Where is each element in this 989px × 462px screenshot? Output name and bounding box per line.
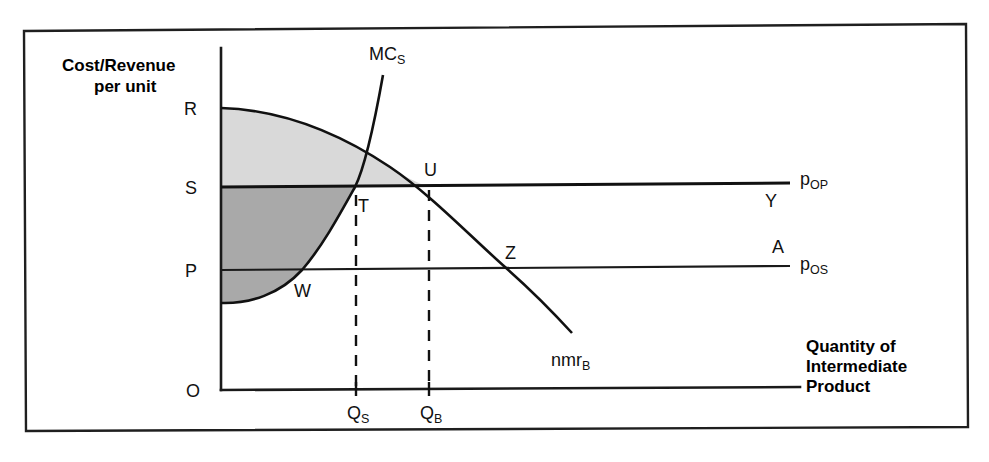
MCS-base: MC [369, 44, 397, 64]
svg-text:pOS: pOS [800, 254, 828, 277]
svg-text:nmrB: nmrB [551, 350, 590, 373]
pOS-base: p [800, 254, 810, 274]
x-axis-title-line2: Intermediate [806, 357, 907, 376]
QB-base: Q [420, 403, 434, 423]
origin-label-O: O [186, 381, 200, 401]
price-endpoint-label-A: A [772, 237, 784, 257]
nmrB-base: nmr [551, 350, 582, 370]
point-label-T: T [358, 196, 369, 216]
svg-text:QB: QB [420, 403, 442, 426]
point-label-U: U [424, 160, 437, 180]
price-label-pOS: pOS [800, 254, 828, 277]
economics-diagram-svg: Cost/Revenue per unit Quantity of Interm… [0, 0, 989, 462]
svg-text:QS: QS [347, 403, 369, 426]
x-axis [221, 387, 800, 390]
y-mark-label-S: S [185, 178, 197, 198]
x-axis-title-line1: Quantity of [806, 337, 896, 356]
QS-base: Q [347, 403, 361, 423]
pOS-subscript: OS [810, 263, 828, 277]
svg-text:MCS: MCS [369, 44, 405, 67]
y-axis-title-line2: per unit [94, 77, 157, 96]
x-axis-title-line3: Product [806, 377, 871, 396]
y-axis-title-line1: Cost/Revenue [62, 56, 175, 75]
x-mark-label-QS: QS [347, 403, 369, 426]
y-mark-label-R: R [184, 99, 197, 119]
nmrB-subscript: B [582, 359, 590, 373]
point-label-W: W [294, 281, 311, 301]
curve-label-MCS: MCS [369, 44, 405, 67]
QB-subscript: B [434, 412, 442, 426]
pOP-base: p [800, 169, 810, 189]
upper-shaded-region [221, 108, 428, 187]
QS-subscript: S [361, 412, 369, 426]
pOP-subscript: OP [810, 178, 828, 192]
price-label-pOP: pOP [800, 169, 828, 192]
price-endpoint-label-Y: Y [765, 191, 777, 211]
curve-label-nmrB: nmrB [551, 350, 590, 373]
lower-shaded-region [221, 187, 355, 303]
MCS-subscript: S [397, 53, 405, 67]
figure-canvas: Cost/Revenue per unit Quantity of Interm… [0, 0, 989, 462]
point-label-Z: Z [505, 243, 516, 263]
y-mark-label-P: P [185, 261, 197, 281]
x-mark-label-QB: QB [420, 403, 442, 426]
svg-text:pOP: pOP [800, 169, 828, 192]
